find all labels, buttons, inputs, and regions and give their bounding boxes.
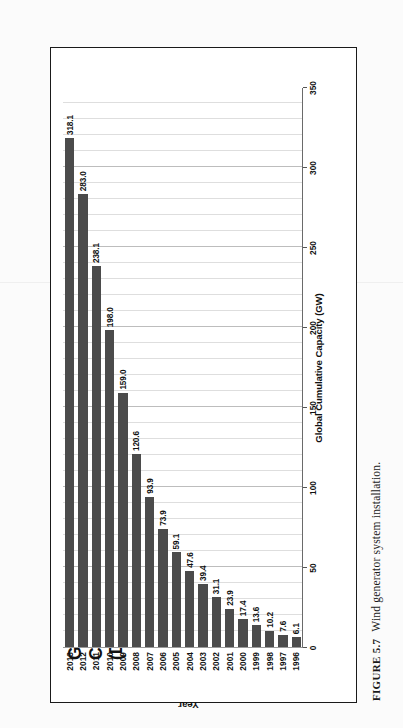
category-label: 1998 — [264, 652, 274, 692]
category-label: 2001 — [224, 652, 234, 692]
figure-caption-text: Wind generator system installation. — [370, 462, 382, 632]
bar-row — [144, 88, 153, 647]
bar-row — [131, 88, 140, 647]
plot-inner — [63, 88, 302, 647]
rotated-figure-wrapper: Global Wind Power Cumulative Capacity (D… — [26, 19, 378, 709]
figure-caption: FIGURE 5.7Wind generator system installa… — [370, 462, 382, 701]
bar — [238, 619, 247, 647]
figure-caption-label: FIGURE 5.7 — [370, 639, 382, 701]
bar-row — [198, 88, 207, 647]
bar — [78, 194, 87, 647]
bar-value-label: 59.1 — [171, 534, 180, 550]
bar-row — [171, 88, 180, 647]
category-label: 2006 — [158, 652, 168, 692]
category-label: 2013 — [64, 652, 74, 692]
category-label: 2010 — [104, 652, 114, 692]
axis-tickmark — [303, 567, 307, 568]
category-label: 1996 — [291, 652, 301, 692]
bar-row — [224, 88, 233, 647]
bar-row — [158, 88, 167, 647]
bar-value-label: 198.0 — [105, 307, 114, 327]
bar-row — [251, 88, 260, 647]
bar — [224, 609, 233, 647]
bar-row — [278, 88, 287, 647]
bar-row — [238, 88, 247, 647]
bar-value-label: 7.6 — [278, 621, 287, 632]
axis-tickmark — [303, 487, 307, 488]
bar-value-label: 93.9 — [145, 478, 154, 494]
category-label: 2005 — [171, 652, 181, 692]
value-axis-title: Global Cumulative Capacity (GW) — [313, 88, 324, 648]
bar-value-label: 318.1 — [65, 115, 74, 135]
bar-value-label: 10.2 — [265, 612, 274, 628]
scanned-page: Global Wind Power Cumulative Capacity (D… — [0, 0, 403, 728]
bar-row — [118, 88, 127, 647]
bar — [91, 266, 100, 647]
category-label: 2002 — [211, 652, 221, 692]
bar-value-label: 13.6 — [251, 607, 260, 623]
bar — [118, 393, 127, 647]
category-label: 2008 — [131, 652, 141, 692]
bar — [131, 454, 140, 647]
category-label: 2009 — [118, 652, 128, 692]
axis-tickmark — [303, 87, 307, 88]
bar-value-label: 120.6 — [131, 431, 140, 451]
category-label: 1999 — [251, 652, 261, 692]
bar-chart: Global Wind Power Cumulative Capacity (D… — [51, 48, 356, 702]
axis-tickmark — [303, 647, 307, 648]
bar-value-label: 159.0 — [118, 370, 127, 390]
bar-value-label: 238.1 — [91, 243, 100, 263]
axis-tickmark — [303, 247, 307, 248]
bar — [198, 584, 207, 647]
bar-row — [211, 88, 220, 647]
bar — [158, 529, 167, 647]
axis-tickmark — [303, 407, 307, 408]
axis-tickmark — [303, 167, 307, 168]
bar-row — [291, 88, 300, 647]
category-label: 2007 — [144, 652, 154, 692]
bar — [211, 597, 220, 647]
bar-row — [104, 88, 113, 647]
plot-area — [63, 88, 303, 648]
bar — [184, 571, 193, 647]
bar — [104, 330, 113, 647]
bar-value-label: 6.1 — [291, 623, 300, 634]
bar — [291, 637, 300, 647]
bar-row — [91, 88, 100, 647]
bar — [171, 552, 180, 647]
category-label: 2003 — [198, 652, 208, 692]
bar — [278, 635, 287, 647]
bar-row — [64, 88, 73, 647]
bar — [251, 625, 260, 647]
bar-value-label: 39.4 — [198, 565, 207, 581]
category-label: 2012 — [78, 652, 88, 692]
bar-row — [264, 88, 273, 647]
bar — [264, 631, 273, 647]
bar — [144, 497, 153, 647]
figure-frame: Global Wind Power Cumulative Capacity (D… — [50, 47, 357, 703]
bar-value-label: 31.1 — [211, 579, 220, 595]
bar-value-label: 17.4 — [238, 601, 247, 617]
category-axis-title: Year — [178, 700, 199, 711]
bar-value-label: 23.9 — [225, 590, 234, 606]
category-label: 2000 — [238, 652, 248, 692]
category-label: 2004 — [184, 652, 194, 692]
axis-tickmark — [303, 327, 307, 328]
bar-value-label: 47.6 — [185, 552, 194, 568]
category-label: 2011 — [91, 652, 101, 692]
bar-value-label: 73.9 — [158, 510, 167, 526]
bar — [64, 138, 73, 647]
category-label: 1997 — [278, 652, 288, 692]
bar-value-label: 283.0 — [78, 171, 87, 191]
